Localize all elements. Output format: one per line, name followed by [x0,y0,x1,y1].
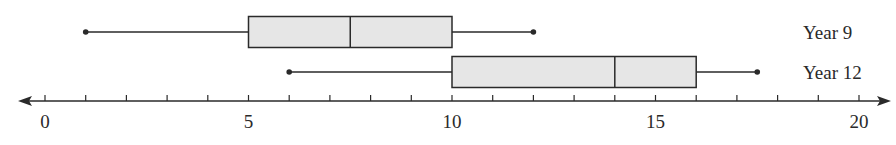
tick-label: 5 [244,111,254,132]
tick-label: 15 [646,111,665,132]
min-point [286,69,292,75]
iqr-box [452,57,696,88]
tick-label: 10 [443,111,462,132]
number-line-axis: 05101520 [18,95,891,132]
series-label: Year 9 [803,22,852,43]
max-point [531,29,537,35]
series-labels: Year 9Year 12 [803,22,862,83]
boxplots [83,17,760,88]
tick-label: 20 [850,111,869,132]
series-label: Year 12 [803,62,862,83]
min-point [83,29,89,35]
boxplot-year-9 [83,17,536,48]
boxplot-year-12 [286,57,760,88]
tick-label: 0 [40,111,50,132]
boxplot-chart: 05101520 Year 9Year 12 [0,0,896,145]
max-point [754,69,760,75]
